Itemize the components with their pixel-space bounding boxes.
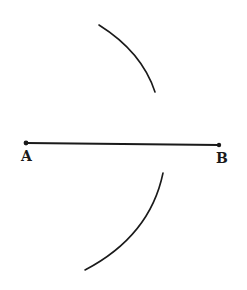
point-a-label: A: [21, 149, 32, 163]
diagram-svg: [0, 0, 247, 290]
point-a-dot: [24, 141, 29, 146]
lower-arc: [85, 173, 163, 270]
construction-diagram: A B: [0, 0, 247, 290]
point-b-label: B: [216, 151, 228, 165]
point-b-dot: [217, 143, 221, 147]
segment-ab: [26, 143, 219, 145]
upper-arc: [99, 25, 155, 92]
